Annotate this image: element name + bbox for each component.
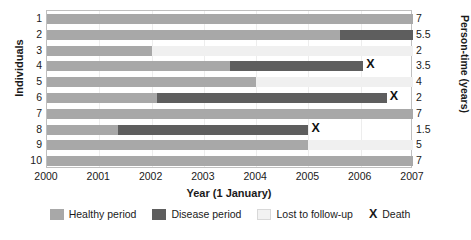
segment-healthy <box>47 140 308 150</box>
legend-item-disease: Disease period <box>152 208 241 220</box>
death-marker-icon: X <box>390 91 398 101</box>
x-axis-title: Year (1 January) <box>46 187 412 199</box>
timeline-row <box>47 93 411 103</box>
y-tick-individual: 5 <box>18 76 42 86</box>
timeline-row <box>47 30 411 40</box>
y-tick-person-time: 7 <box>416 13 442 23</box>
legend-item-lost: Lost to follow-up <box>257 208 352 220</box>
y-tick-individual: 9 <box>18 139 42 149</box>
death-marker-icon: X <box>369 207 377 221</box>
x-tick-label: 2007 <box>390 170 434 182</box>
y-tick-individual: 8 <box>18 124 42 134</box>
y-tick-person-time: 4 <box>416 76 442 86</box>
y-tick-person-time: 2 <box>416 92 442 102</box>
y-tick-person-time: 7 <box>416 155 442 165</box>
y-tick-individual: 2 <box>18 29 42 39</box>
x-tick-label: 2003 <box>181 170 225 182</box>
x-tick-label: 2002 <box>129 170 173 182</box>
segment-lost <box>256 77 413 87</box>
segment-healthy <box>47 61 230 71</box>
segment-lost <box>308 140 413 150</box>
segment-lost <box>152 46 413 56</box>
segment-healthy <box>47 109 413 119</box>
y-tick-individual: 4 <box>18 60 42 70</box>
segment-disease <box>157 93 387 103</box>
legend-label: Lost to follow-up <box>276 208 352 220</box>
y-tick-person-time: 3.5 <box>416 60 442 70</box>
y-tick-individual: 3 <box>18 45 42 55</box>
x-tick-label: 2004 <box>233 170 277 182</box>
y-tick-individual: 10 <box>18 155 42 165</box>
plot-area <box>46 10 412 168</box>
timeline-row <box>47 156 411 166</box>
segment-healthy <box>47 77 256 87</box>
x-tick-label: 2006 <box>338 170 382 182</box>
legend-item-healthy: Healthy period <box>50 208 137 220</box>
legend-label: Death <box>382 208 410 220</box>
legend-item-death: XDeath <box>369 207 410 221</box>
y-tick-individual: 7 <box>18 108 42 118</box>
timeline-row <box>47 46 411 56</box>
y-tick-person-time: 2 <box>416 45 442 55</box>
timeline-row <box>47 140 411 150</box>
segment-healthy <box>47 30 340 40</box>
y-tick-individual: 6 <box>18 92 42 102</box>
y-tick-person-time: 1.5 <box>416 124 442 134</box>
segment-healthy <box>47 93 157 103</box>
y-tick-individual: 1 <box>18 13 42 23</box>
legend-label: Healthy period <box>69 208 137 220</box>
legend-label: Disease period <box>171 208 241 220</box>
segment-disease <box>340 30 413 40</box>
timeline-row <box>47 77 411 87</box>
death-marker-icon: X <box>366 59 374 69</box>
segment-healthy <box>47 14 413 24</box>
legend-swatch-healthy <box>50 209 64 220</box>
segment-healthy <box>47 125 118 135</box>
y-axis-title-right: Person-time (years) <box>459 9 471 119</box>
x-tick-label: 2000 <box>24 170 68 182</box>
x-tick-label: 2001 <box>76 170 120 182</box>
segment-disease <box>230 61 363 71</box>
y-tick-person-time: 7 <box>416 108 442 118</box>
segment-healthy <box>47 46 152 56</box>
death-marker-icon: X <box>311 123 319 133</box>
segment-disease <box>118 125 309 135</box>
legend-swatch-lost <box>257 209 271 220</box>
y-tick-person-time: 5 <box>416 139 442 149</box>
chart-legend: Healthy periodDisease periodLost to foll… <box>0 207 460 221</box>
timeline-row <box>47 61 411 71</box>
timeline-row <box>47 109 411 119</box>
x-tick-label: 2005 <box>285 170 329 182</box>
timeline-row <box>47 125 411 135</box>
y-tick-person-time: 5.5 <box>416 29 442 39</box>
legend-swatch-disease <box>152 209 166 220</box>
segment-healthy <box>47 156 413 166</box>
timeline-row <box>47 14 411 24</box>
